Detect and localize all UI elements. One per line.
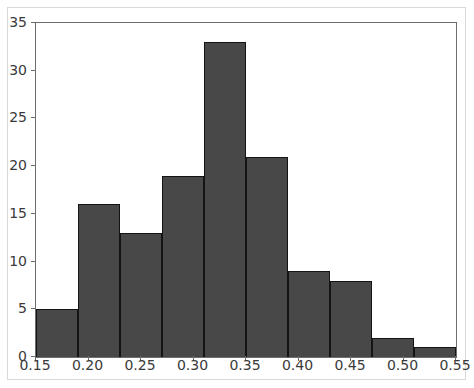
histogram-bar [204, 42, 246, 357]
histogram-bar [120, 233, 162, 357]
histogram-bar [330, 281, 372, 357]
histogram-bar [372, 338, 414, 357]
histogram-bar [246, 157, 288, 357]
histogram-bar [78, 204, 120, 357]
figure: 051015202530350.150.200.250.300.350.400.… [0, 0, 474, 388]
histogram-bars-layer [36, 23, 456, 357]
histogram-bar [162, 176, 204, 357]
histogram-bar [288, 271, 330, 357]
histogram-bar [36, 309, 78, 357]
histogram-bar [414, 347, 456, 357]
histogram-axes [35, 22, 457, 358]
